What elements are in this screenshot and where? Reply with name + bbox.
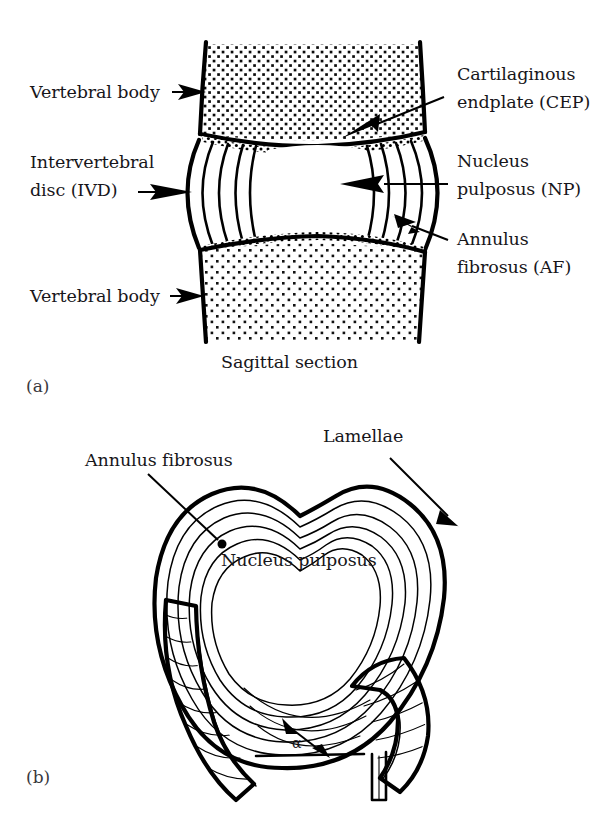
panel-label-b: (b) (26, 767, 50, 787)
panel-b-cross-section-diagram: Annulus fibrosus Lamellae Nucleus pulpos… (26, 426, 460, 800)
caption-sagittal-section: Sagittal section (221, 352, 358, 372)
label-cartilaginous-endplate-line1: Cartilaginous (457, 64, 576, 84)
panel-a-sagittal-diagram: Vertebral body Intervertebral disc (IVD)… (26, 42, 590, 396)
figure-root: Vertebral body Intervertebral disc (IVD)… (0, 0, 616, 824)
label-annulus-fibrosus-line1: Annulus (456, 229, 529, 249)
vertebral-body-bottom-shape (200, 236, 425, 342)
panel-label-a: (a) (26, 376, 49, 396)
label-fiber-angle-alpha: α (292, 735, 302, 751)
label-nucleus-pulposus-line1: Nucleus (457, 151, 529, 171)
nucleus-pulposus-void (225, 560, 367, 693)
leader-vertebral-body-bottom (170, 288, 204, 304)
label-annulus-fibrosus-line2: fibrosus (AF) (457, 257, 571, 277)
leader-annulus-fibrosus-b (148, 474, 227, 549)
label-intervertebral-disc-line1: Intervertebral (30, 152, 155, 172)
anatomy-figure: Vertebral body Intervertebral disc (IVD)… (0, 0, 616, 824)
vertebral-body-top-shape (200, 42, 425, 146)
label-cartilaginous-endplate-line2: endplate (CEP) (457, 92, 590, 112)
label-vertebral-body-bottom: Vertebral body (29, 286, 160, 306)
posterior-annulus-arcs (244, 688, 370, 756)
label-intervertebral-disc-line2: disc (IVD) (30, 180, 117, 200)
label-annulus-fibrosus-b: Annulus fibrosus (84, 450, 233, 470)
label-vertebral-body-top: Vertebral body (29, 82, 160, 102)
label-lamellae: Lamellae (323, 426, 403, 446)
label-nucleus-pulposus-line2: pulposus (NP) (457, 179, 581, 199)
label-nucleus-pulposus-b: Nucleus pulposus (221, 550, 377, 570)
leader-intervertebral-disc (138, 184, 192, 200)
